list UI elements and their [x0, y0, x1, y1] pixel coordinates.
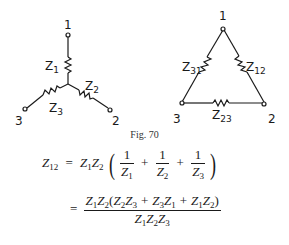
equals-sign: = — [65, 155, 72, 170]
equation-line-1: Z12 = Z1Z2 ( 1Z1 + 1Z2 + 1Z3 ) — [42, 147, 218, 181]
z1-label: Z1 — [45, 59, 59, 75]
star-node-1-label: 1 — [64, 18, 72, 32]
z31-label: Z31 — [182, 60, 202, 76]
plus-sign: + — [141, 155, 148, 170]
star-network — [23, 33, 112, 112]
lhs-z12: Z12 — [42, 155, 58, 170]
result-numerator: Z1Z2(Z2Z3+Z3Z1+Z1Z2) — [85, 193, 220, 210]
fraction-1-over-z1: 1Z1 — [120, 147, 134, 181]
result-denominator: Z1Z2Z3 — [84, 210, 221, 228]
delta-labels: 1 3 2 Z31 Z12 Z23 — [173, 9, 276, 126]
fraction-1-over-z3: 1Z3 — [191, 147, 205, 181]
result-fraction: Z1Z2(Z2Z3+Z3Z1+Z1Z2) Z1Z2Z3 — [85, 193, 220, 228]
z2-label: Z2 — [85, 79, 99, 95]
left-paren: ( — [109, 149, 115, 179]
star-node-3-label: 3 — [15, 114, 23, 128]
star-node-2-label: 2 — [112, 114, 120, 128]
delta-node-1-label: 1 — [219, 9, 227, 23]
plus-sign: + — [177, 155, 184, 170]
equation-line-2: = Z1Z2(Z2Z3+Z3Z1+Z1Z2) Z1Z2Z3 — [66, 193, 220, 228]
z23-label: Z23 — [212, 108, 232, 124]
figure-caption: Fig. 70 — [0, 129, 289, 140]
delta-node-3-label: 3 — [173, 112, 181, 126]
z3-label: Z3 — [49, 101, 63, 117]
right-paren: ) — [210, 149, 216, 179]
delta-node-2-label: 2 — [268, 112, 276, 126]
z12-label: Z12 — [246, 60, 266, 76]
star-delta-diagram: 1 3 2 Z1 Z2 Z3 1 3 2 Z31 Z12 Z23 — [0, 0, 289, 130]
fraction-1-over-z2: 1Z2 — [156, 147, 170, 181]
prefix-z1z2: Z1Z2 — [80, 155, 103, 170]
equals-sign: = — [70, 201, 77, 216]
